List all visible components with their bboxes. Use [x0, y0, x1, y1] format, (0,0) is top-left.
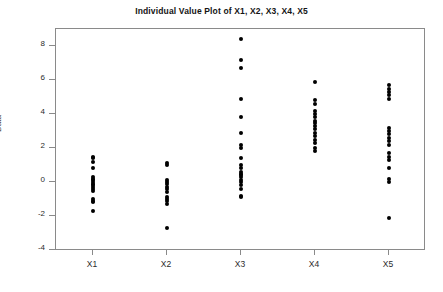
y-axis-tick-label: 4: [41, 107, 45, 116]
data-point: [239, 115, 243, 119]
y-axis-tick-label: 6: [41, 73, 45, 82]
data-point: [239, 58, 243, 62]
data-point: [91, 166, 95, 170]
individual-value-plot: Individual Value Plot of X1, X2, X3, X4,…: [0, 0, 443, 292]
y-axis-tick-label: 2: [41, 141, 45, 150]
x-axis-tick-mark: [314, 250, 315, 255]
y-axis-title: Data: [0, 115, 3, 132]
data-point: [239, 195, 243, 199]
data-point: [165, 190, 169, 194]
x-axis-tick-label: X2: [146, 259, 186, 269]
data-point: [313, 141, 317, 145]
x-axis-tick-label: X1: [72, 259, 112, 269]
data-point: [165, 226, 169, 230]
x-axis-tick-label: X4: [294, 259, 334, 269]
x-axis-tick-mark: [92, 250, 93, 255]
data-point: [387, 216, 391, 220]
data-point: [387, 97, 391, 101]
data-point: [387, 180, 391, 184]
data-point: [91, 160, 95, 164]
y-axis-tick-label: -4: [38, 243, 45, 252]
x-axis-tick-mark: [240, 250, 241, 255]
y-axis-tick-label: 8: [41, 39, 45, 48]
data-point: [91, 200, 95, 204]
x-axis-tick-mark: [388, 250, 389, 255]
data-point: [313, 102, 317, 106]
data-point: [239, 156, 243, 160]
plot-area: [55, 28, 425, 250]
data-point: [239, 131, 243, 135]
data-point: [387, 166, 391, 170]
x-axis-tick-label: X5: [368, 259, 408, 269]
data-point: [313, 149, 317, 153]
x-axis-tick-mark: [166, 250, 167, 255]
data-point: [91, 189, 95, 193]
y-axis-tick-label: 0: [41, 175, 45, 184]
data-point: [239, 187, 243, 191]
data-point: [239, 37, 243, 41]
data-point: [387, 158, 391, 162]
y-axis-tick-label: -2: [38, 209, 45, 218]
data-point: [165, 163, 169, 167]
x-axis-tick-label: X3: [220, 259, 260, 269]
data-point: [239, 146, 243, 150]
data-point: [313, 80, 317, 84]
data-point: [239, 66, 243, 70]
chart-title: Individual Value Plot of X1, X2, X3, X4,…: [0, 6, 443, 16]
data-point: [387, 143, 391, 147]
data-point: [239, 97, 243, 101]
data-point: [91, 209, 95, 213]
data-point: [165, 202, 169, 206]
